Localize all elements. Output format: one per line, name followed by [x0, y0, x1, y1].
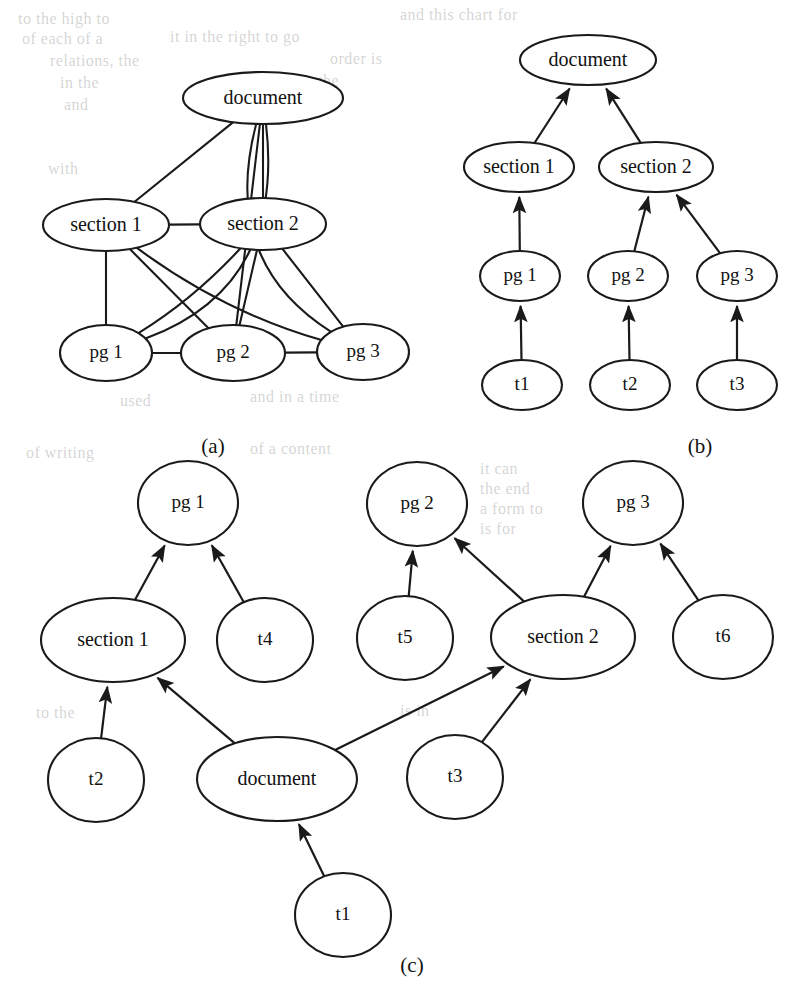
- node-ellipse: [48, 738, 144, 822]
- node-b-t1[interactable]: t1: [482, 360, 562, 410]
- node-c-t5[interactable]: t5: [357, 596, 453, 680]
- node-b-document[interactable]: document: [520, 35, 656, 85]
- panel-caption-c: (c): [400, 953, 423, 977]
- node-ellipse: [491, 595, 635, 679]
- node-ellipse: [60, 325, 152, 381]
- edge-c-section2-to-pg3: [584, 546, 611, 597]
- node-a-document[interactable]: document: [183, 72, 343, 124]
- node-a-pg2[interactable]: pg 2: [181, 325, 285, 381]
- node-ellipse: [181, 325, 285, 381]
- edge-c-t5-to-pg2: [409, 551, 413, 596]
- edge-b-section1-to-document: [535, 89, 570, 144]
- edge-c-t3-to-section2: [482, 679, 531, 742]
- node-b-t3[interactable]: t3: [697, 360, 777, 410]
- node-c-t6[interactable]: t6: [673, 595, 773, 679]
- node-a-section1[interactable]: section 1: [43, 199, 169, 251]
- edge-b-section2-to-document: [606, 89, 641, 143]
- node-ellipse: [590, 360, 670, 410]
- edge-c-document-to-section1: [158, 678, 235, 744]
- node-b-t2[interactable]: t2: [590, 360, 670, 410]
- edge-a-document-to-section1: [135, 122, 234, 202]
- node-ellipse: [599, 142, 713, 192]
- node-a-section2[interactable]: section 2: [200, 198, 326, 250]
- edge-c-section1-to-pg1: [135, 546, 165, 601]
- node-ellipse: [41, 598, 185, 682]
- node-ellipse: [217, 598, 313, 682]
- figure-container: to the high toand this chart forof each …: [0, 0, 803, 999]
- node-c-pg2[interactable]: pg 2: [367, 462, 467, 546]
- node-ellipse: [407, 735, 503, 819]
- edge-b-pg1-to-section1: [519, 197, 520, 251]
- node-ellipse: [317, 324, 409, 380]
- node-ellipse: [480, 251, 560, 301]
- node-c-pg3[interactable]: pg 3: [583, 461, 683, 545]
- node-ellipse: [583, 461, 683, 545]
- node-c-section2[interactable]: section 2: [491, 595, 635, 679]
- node-b-pg2[interactable]: pg 2: [588, 251, 668, 301]
- graph-diagram: documentsection 1section 2pg 1pg 2pg 3do…: [0, 0, 803, 999]
- node-ellipse: [183, 72, 343, 124]
- node-ellipse: [588, 251, 668, 301]
- node-c-t2[interactable]: t2: [48, 738, 144, 822]
- node-b-pg1[interactable]: pg 1: [480, 251, 560, 301]
- node-a-pg1[interactable]: pg 1: [60, 325, 152, 381]
- edge-a-section2-to-pg3: [282, 249, 343, 327]
- node-ellipse: [200, 198, 326, 250]
- panel-caption-a: (a): [201, 434, 224, 458]
- nodes-layer: documentsection 1section 2pg 1pg 2pg 3do…: [41, 35, 777, 957]
- node-c-pg1[interactable]: pg 1: [138, 461, 238, 545]
- node-ellipse: [43, 199, 169, 251]
- node-ellipse: [482, 360, 562, 410]
- node-b-pg3[interactable]: pg 3: [697, 251, 777, 301]
- node-a-pg3[interactable]: pg 3: [317, 324, 409, 380]
- node-ellipse: [367, 462, 467, 546]
- edge-c-t6-to-pg3: [660, 544, 698, 601]
- node-ellipse: [295, 873, 391, 957]
- edge-c-t1-to-document: [299, 824, 324, 876]
- node-ellipse: [357, 596, 453, 680]
- edge-b-t2-to-pg2: [629, 306, 630, 360]
- node-c-section1[interactable]: section 1: [41, 598, 185, 682]
- edge-b-t1-to-pg1: [521, 306, 522, 360]
- node-ellipse: [138, 461, 238, 545]
- node-ellipse: [464, 142, 574, 192]
- node-c-t3[interactable]: t3: [407, 735, 503, 819]
- edge-c-t4-to-pg1: [212, 545, 244, 602]
- panel-caption-b: (b): [688, 434, 713, 458]
- node-ellipse: [697, 360, 777, 410]
- node-b-section1[interactable]: section 1: [464, 142, 574, 192]
- node-ellipse: [673, 595, 773, 679]
- edge-c-t2-to-section1: [101, 687, 107, 738]
- node-c-document[interactable]: document: [197, 737, 357, 821]
- node-ellipse: [697, 251, 777, 301]
- node-b-section2[interactable]: section 2: [599, 142, 713, 192]
- edge-b-pg3-to-section2: [677, 195, 721, 254]
- node-ellipse: [520, 35, 656, 85]
- node-c-t4[interactable]: t4: [217, 598, 313, 682]
- edge-a-section1-to-pg2: [130, 249, 209, 328]
- node-ellipse: [197, 737, 357, 821]
- edge-b-pg2-to-section2: [634, 197, 648, 252]
- node-c-t1[interactable]: t1: [295, 873, 391, 957]
- edge-c-section2-to-pg2: [455, 538, 525, 601]
